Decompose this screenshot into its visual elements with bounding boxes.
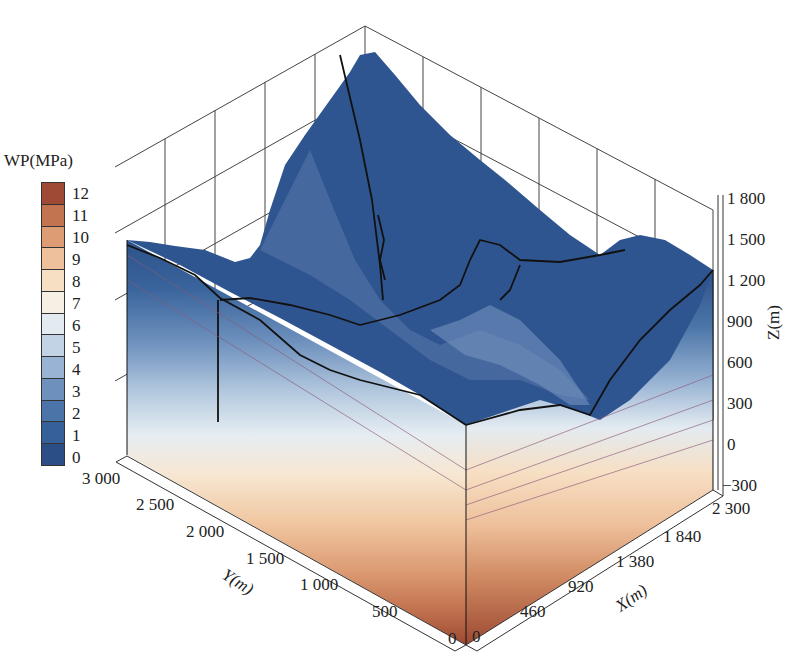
colorbar-tick: 2 [72,404,81,424]
colorbar [41,182,65,466]
colorbar-band-1 [42,422,64,444]
colorbar-tick: 11 [72,206,88,226]
z-tick: 1 500 [727,231,765,248]
colorbar-band-3 [42,379,64,401]
colorbar-band-8 [42,270,64,292]
colorbar-tick: 3 [72,382,81,402]
y-tick: 1 000 [300,576,338,593]
z-axis-title: Z(m) [764,305,784,340]
colorbar-band-10 [42,227,64,249]
legend-title: WP(MPa) [4,151,73,171]
colorbar-tick: 5 [72,338,81,358]
y-tick: 2 000 [186,523,224,540]
colorbar-tick: 4 [72,360,81,380]
colorbar-tick: 1 [72,426,81,446]
colorbar-band-11 [42,205,64,227]
colorbar-band-7 [42,292,64,314]
colorbar-band-6 [42,314,64,336]
y-tick: 1 500 [246,550,284,567]
colorbar-band-0 [42,444,64,465]
z-tick: 0 [727,436,736,453]
y-tick: 500 [372,603,398,620]
y-tick: 2 500 [136,496,174,513]
colorbar-tick: 7 [72,294,81,314]
colorbar-tick: 12 [72,184,89,204]
z-tick: 600 [727,354,753,371]
x-tick: 1 380 [616,553,654,570]
3d-block-plot [0,0,803,666]
colorbar-band-5 [42,335,64,357]
x-tick: 920 [568,578,594,595]
z-tick: 900 [727,313,753,330]
y-tick: 3 000 [82,470,120,487]
colorbar-band-9 [42,248,64,270]
z-tick: 1 800 [727,190,765,207]
colorbar-band-2 [42,401,64,423]
z-tick: −300 [722,477,757,494]
x-tick: 460 [520,603,546,620]
colorbar-band-12 [42,183,64,205]
colorbar-tick: 6 [72,316,81,336]
x-tick: 0 [472,628,481,645]
colorbar-tick: 9 [72,250,81,270]
colorbar-tick: 10 [72,228,89,248]
z-tick: 1 200 [727,272,765,289]
colorbar-tick: 0 [72,448,81,468]
x-tick: 2 300 [712,500,750,517]
x-tick: 1 840 [663,528,701,545]
y-tick: 0 [448,630,457,647]
colorbar-tick: 8 [72,272,81,292]
colorbar-band-4 [42,357,64,379]
z-tick: 300 [727,395,753,412]
